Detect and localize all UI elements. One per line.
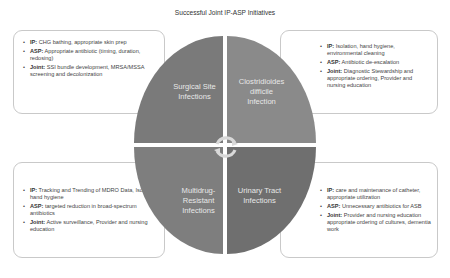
- initiative-asp: ASP: Antibiotic de-escalation: [319, 59, 431, 66]
- quadrant-surgical-site-infections: Surgical SiteInfections: [134, 36, 223, 143]
- quadrant-cdiff-infection: ClostridioidesdifficileInfection: [227, 36, 316, 143]
- cycle-arrows-icon: [211, 132, 241, 162]
- quadrant-urinary-tract-infections: Urinary TractInfections: [227, 147, 316, 254]
- initiative-ip: IP: Isolation, hand hygiene, environment…: [319, 43, 431, 57]
- initiative-asp: ASP: Unnecessary antibiotics for ASB: [319, 203, 431, 210]
- quadrant-multidrug-resistant-infections: Multidrug-ResistantInfections: [134, 147, 223, 254]
- initiative-ip: IP: care and maintenance of catheter, ap…: [319, 187, 431, 201]
- initiative-joint: Joint: Diagnostic Stewardship and approp…: [319, 68, 431, 90]
- infection-quadrant-circle: Surgical SiteInfections Clostridioidesdi…: [134, 36, 316, 254]
- initiative-joint: Joint: Provider and nursing education ap…: [319, 212, 431, 234]
- diagram-title: Successful Joint IP-ASP Initiatives: [0, 9, 450, 16]
